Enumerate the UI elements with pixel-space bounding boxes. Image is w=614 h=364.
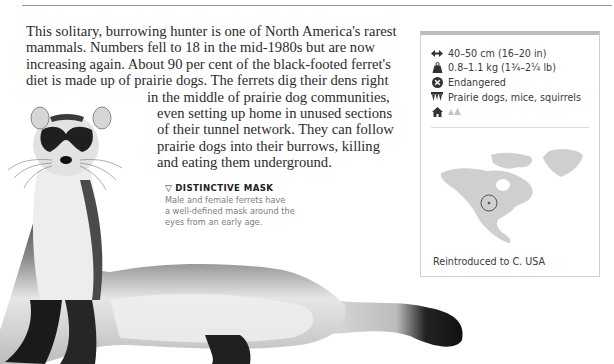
top-rule [22, 5, 612, 6]
map-north-america [441, 168, 533, 243]
range-marker-dot [488, 202, 491, 205]
map-arctic-islands [491, 153, 532, 169]
triangle-marker-icon: ▽ [165, 183, 172, 193]
distinctive-mask-caption: ▽ DISTINCTIVE MASK Male and female ferre… [165, 183, 305, 228]
fact-length: 40–50 cm (16–20 in) [431, 46, 599, 61]
length-arrows-icon [431, 48, 443, 59]
fact-habitat [431, 104, 599, 119]
habitat-home-icon [431, 106, 443, 117]
caption-line: Male and female ferrets have [165, 195, 305, 206]
fact-box: 40–50 cm (16–20 in) 0.8–1.1 kg (1¾–2¼ lb… [420, 31, 600, 277]
body-line: This solitary, burrowing hunter is one o… [26, 23, 376, 39]
body-line: mammals. Numbers fell to 18 in the mid-1… [26, 39, 376, 55]
caption-title-text: DISTINCTIVE MASK [175, 183, 273, 193]
fact-divider [431, 127, 589, 128]
fact-length-text: 40–50 cm (16–20 in) [448, 48, 546, 59]
endangered-status-icon [431, 77, 443, 88]
range-map [431, 143, 591, 243]
fact-weight-text: 0.8–1.1 kg (1¾–2¼ lb) [448, 62, 556, 73]
fact-list: 40–50 cm (16–20 in) 0.8–1.1 kg (1¾–2¼ lb… [421, 35, 599, 119]
fact-diet-text: Prairie dogs, mice, squirrels [448, 92, 581, 103]
grassland-habitat-icon [448, 106, 464, 117]
body-line: increasing again. About 90 per cent of t… [26, 56, 376, 72]
caption-line: a well-defined mask around the [165, 206, 305, 217]
fact-status: Endangered [431, 75, 599, 90]
ferret-illustration [0, 100, 480, 364]
body-line: diet is made up of prairie dogs. The fer… [26, 72, 376, 88]
caption-text: Male and female ferrets have a well-defi… [165, 195, 305, 228]
fact-diet: Prairie dogs, mice, squirrels [431, 90, 599, 105]
caption-title: ▽ DISTINCTIVE MASK [165, 183, 305, 193]
map-caption: Reintroduced to C. USA [433, 256, 545, 267]
map-greenland [543, 149, 583, 177]
fact-status-text: Endangered [448, 77, 506, 88]
caption-line: eyes from an early age. [165, 217, 305, 228]
fact-weight: 0.8–1.1 kg (1¾–2¼ lb) [431, 61, 599, 76]
diet-teeth-icon [431, 92, 443, 103]
weight-icon [431, 62, 443, 73]
